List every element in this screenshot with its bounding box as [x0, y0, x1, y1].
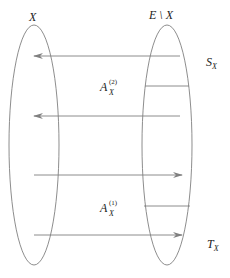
t-x-label: TX: [207, 237, 220, 253]
a2-label: A (2) X: [99, 78, 118, 97]
set-x-ellipse: [9, 25, 59, 265]
svg-text:A: A: [99, 201, 108, 215]
svg-text:A: A: [99, 80, 108, 94]
a1-label: A (1) X: [99, 199, 118, 218]
svg-text:(2): (2): [109, 78, 118, 86]
set-complement-label: E \ X: [148, 8, 174, 22]
svg-text:X: X: [108, 209, 115, 218]
svg-text:X: X: [108, 88, 115, 97]
svg-text:(1): (1): [109, 199, 118, 207]
s-x-label: SX: [206, 55, 218, 71]
set-diagram: X E \ X SX TX A (2) X A (1) X: [0, 0, 230, 278]
set-x-label: X: [28, 10, 37, 24]
set-complement-ellipse: [142, 25, 192, 265]
